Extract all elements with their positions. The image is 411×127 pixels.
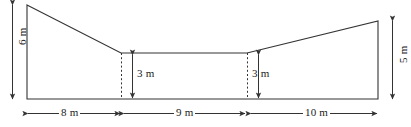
label-right-height: 5 m: [398, 46, 409, 63]
cross-section-outline: [27, 5, 378, 99]
label-base-right: 10 m: [303, 107, 330, 118]
label-base-left: 8 m: [59, 107, 80, 118]
label-inner-depth-left: 3 m: [137, 68, 154, 79]
geometry-figure: 6 m 5 m 3 m 3 m 8 m 9 m 10 m: [0, 0, 411, 127]
label-left-height: 6 m: [17, 28, 28, 45]
label-base-middle: 9 m: [174, 107, 195, 118]
label-inner-depth-right: 3 m: [252, 68, 269, 79]
